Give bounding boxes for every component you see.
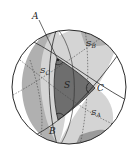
vertex-a-dot bbox=[57, 59, 59, 61]
label-c: C bbox=[97, 83, 104, 93]
label-b: B bbox=[48, 126, 56, 136]
spherical-triangle-diagram: A C B S SC SB SA bbox=[0, 0, 130, 155]
label-a: A bbox=[31, 11, 39, 21]
label-s: S bbox=[64, 80, 70, 90]
